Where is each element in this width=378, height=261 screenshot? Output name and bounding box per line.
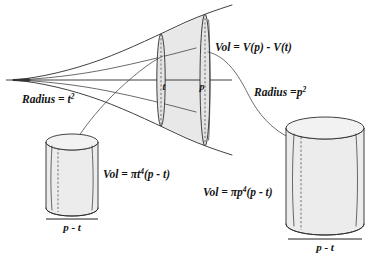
cylinder-large: p - t <box>286 117 364 253</box>
radius-inner-text: Radius = t <box>21 93 72 105</box>
cylinder-small-body <box>46 142 98 216</box>
small-vol-prefix: Vol = <box>103 168 131 180</box>
radius-outer-text: Radius =p <box>253 86 303 99</box>
large-vol-prefix: Vol = <box>203 186 231 198</box>
cylinder-small: p - t <box>46 134 98 233</box>
solid-of-revolution-diagram: t p p - t Vol = πt4(p - t) <box>0 0 378 261</box>
cylinder-small-height-label: p - t <box>62 221 82 233</box>
cylinder-large-height-label: p - t <box>315 241 335 253</box>
svg-text:Vol = πt4(p - t): Vol = πt4(p - t) <box>103 167 170 181</box>
svg-text:Radius = t2: Radius = t2 <box>21 92 75 105</box>
horn-volume-label: Vol = V(p) - V(t) <box>215 41 292 54</box>
cylinder-large-volume-label: Vol = πp4(p - t) <box>203 185 273 199</box>
radius-label-inner: Radius = t2 <box>21 92 75 105</box>
radius-label-outer: Radius =p2 <box>253 85 306 99</box>
small-vol-suffix: (p - t) <box>144 168 170 181</box>
cylinder-small-top-cap <box>46 134 98 150</box>
radius-inner-exponent: 2 <box>70 92 75 101</box>
svg-text:Vol = πp4(p - t): Vol = πp4(p - t) <box>203 185 273 199</box>
figure-root: t p p - t Vol = πt4(p - t) <box>0 0 378 261</box>
cylinder-small-volume-label: Vol = πt4(p - t) <box>103 167 170 181</box>
svg-text:Radius =p2: Radius =p2 <box>253 85 306 99</box>
radius-outer-exponent: 2 <box>301 85 306 94</box>
horn-solid: t p <box>6 5 232 155</box>
axis-tick-label-p: p <box>199 81 205 92</box>
cylinder-large-top-cap <box>286 117 364 139</box>
large-vol-suffix: (p - t) <box>246 186 272 199</box>
large-vol-pi: πp <box>231 186 243 199</box>
cylinder-large-body <box>286 128 364 235</box>
